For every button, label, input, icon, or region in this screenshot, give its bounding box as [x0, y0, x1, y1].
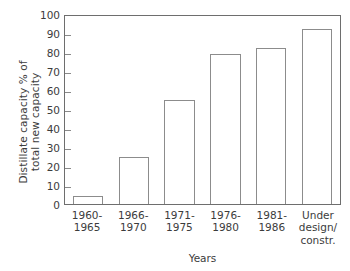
plot-area [64, 15, 341, 205]
y-axis-tick-mark [65, 92, 71, 93]
x-axis-tick-label-line: 1970 [110, 221, 156, 233]
bar-slot [157, 16, 203, 204]
x-axis-tick-label-line: 1975 [156, 221, 202, 233]
bar [210, 54, 240, 204]
x-axis-tick-label-line: 1971- [156, 209, 202, 221]
x-axis-tick-label-line: 1960- [64, 209, 110, 221]
x-axis-tick-label: 1971-1975 [156, 209, 202, 255]
y-axis-tick-label: 80 [28, 47, 60, 59]
bar-chart-figure: Distillate capacity % of total new capac… [0, 0, 350, 271]
y-axis-tick-label: 0 [28, 199, 60, 211]
x-axis-tick-label-line: constr. [295, 234, 341, 246]
bar [164, 100, 194, 205]
y-axis-tick-label: 90 [28, 28, 60, 40]
y-axis-tick-label: 20 [28, 161, 60, 173]
x-axis-tick-label: Underdesign/constr. [295, 209, 341, 255]
bar-slot [65, 16, 111, 204]
bar-series [65, 16, 340, 204]
x-axis-tick-label-line: design/ [295, 221, 341, 233]
y-axis-tick-mark [65, 130, 71, 131]
x-axis-tick-label: 1976-1980 [203, 209, 249, 255]
x-axis-tick-label-line: 1966- [110, 209, 156, 221]
y-axis-tick-mark [65, 73, 71, 74]
x-axis-tick-label-line: 1965 [64, 221, 110, 233]
y-axis-tick-label: 60 [28, 85, 60, 97]
bar-slot [294, 16, 340, 204]
x-axis-tick-label-line: 1981- [249, 209, 295, 221]
x-axis-tick-labels: 1960-19651966-19701971-19751976-19801981… [64, 209, 341, 255]
y-axis-tick-mark [65, 35, 71, 36]
y-axis-tick-mark [65, 187, 71, 188]
bar [73, 196, 103, 204]
x-axis-label: Years [64, 252, 341, 264]
y-axis-tick-label: 30 [28, 142, 60, 154]
y-axis-tick-label: 100 [28, 9, 60, 21]
x-axis-tick-label: 1981-1986 [249, 209, 295, 255]
y-axis-tick-label: 50 [28, 104, 60, 116]
y-axis-tick-labels: 0102030405060708090100 [28, 10, 60, 210]
x-axis-tick-label-line: Under [295, 209, 341, 221]
y-axis-tick-mark [65, 54, 71, 55]
y-axis-tick-mark [65, 149, 71, 150]
y-axis-tick-label: 40 [28, 123, 60, 135]
x-axis-tick-label: 1960-1965 [64, 209, 110, 255]
y-axis-tick-mark [65, 168, 71, 169]
x-axis-tick-label: 1966-1970 [110, 209, 156, 255]
bar [119, 157, 149, 205]
bar-slot [111, 16, 157, 204]
y-axis-tick-label: 70 [28, 66, 60, 78]
x-axis-tick-label-line: 1980 [203, 221, 249, 233]
y-axis-tick-mark [65, 111, 71, 112]
x-axis-tick-label-line: 1986 [249, 221, 295, 233]
bar-slot [202, 16, 248, 204]
bar-slot [248, 16, 294, 204]
y-axis-tick-label: 10 [28, 180, 60, 192]
bar [302, 29, 332, 204]
bar [256, 48, 286, 204]
x-axis-tick-label-line: 1976- [203, 209, 249, 221]
